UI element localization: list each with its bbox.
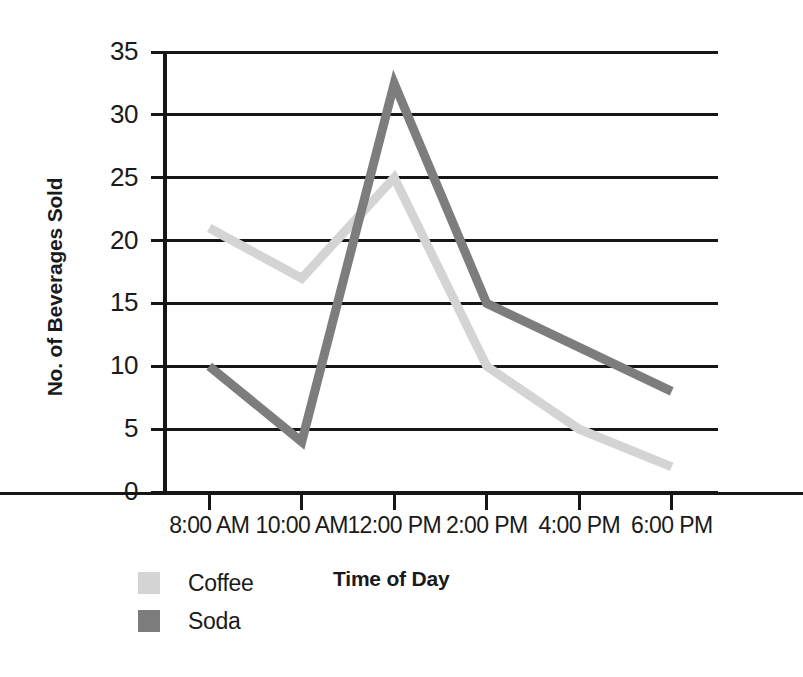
series-lines	[163, 52, 718, 492]
x-axis-tick-label: 10:00 AM	[256, 512, 348, 539]
y-axis-tick-label: 20	[80, 227, 138, 253]
x-axis-tick-mark	[393, 495, 396, 510]
x-axis-tick-label: 8:00 AM	[169, 512, 249, 539]
legend-item[interactable]: Coffee	[138, 564, 254, 602]
y-axis-tick-label: 30	[80, 101, 138, 127]
legend-swatch-icon	[138, 610, 160, 632]
y-axis-tick-label: 25	[80, 164, 138, 190]
legend-item-label: Coffee	[188, 570, 254, 597]
x-axis-line	[0, 492, 803, 495]
y-axis-tick-label: 35	[80, 38, 138, 64]
x-axis-tick-label: 6:00 PM	[631, 512, 712, 539]
legend-item[interactable]: Soda	[138, 602, 254, 640]
x-axis-tick-mark	[670, 495, 673, 510]
x-axis-title: Time of Day	[333, 567, 449, 591]
chart-legend: CoffeeSoda	[138, 564, 254, 640]
y-axis-tick-label: 10	[80, 352, 138, 378]
x-axis-tick-mark	[578, 495, 581, 510]
x-axis-tick-label: 4:00 PM	[539, 512, 620, 539]
line-chart: No. of Beverages Sold 05101520253035 8:0…	[0, 0, 803, 677]
y-axis-title: No. of Beverages Sold	[43, 137, 67, 437]
x-axis-tick-mark	[208, 495, 211, 510]
y-axis-tick-label: 0	[80, 478, 138, 504]
legend-swatch-icon	[138, 572, 160, 594]
x-axis-tick-mark	[300, 495, 303, 510]
x-axis-tick-label: 2:00 PM	[446, 512, 527, 539]
x-axis-tick-mark	[485, 495, 488, 510]
y-axis-tick-label: 5	[80, 415, 138, 441]
y-axis-tick-label: 15	[80, 289, 138, 315]
legend-item-label: Soda	[188, 608, 241, 635]
x-axis-tick-label: 12:00 PM	[347, 512, 441, 539]
plot-area	[163, 52, 718, 492]
